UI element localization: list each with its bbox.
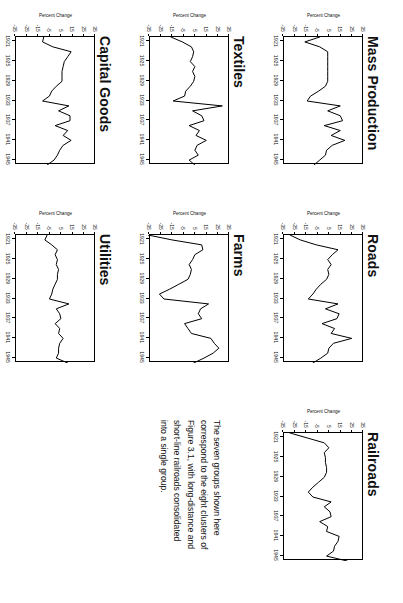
panel-title: Farms [231,234,247,277]
x-tick-mark [13,298,16,299]
y-tick-label: 15 [203,219,209,230]
x-tick-mark [281,515,284,516]
y-tick-label: -35 [280,219,286,230]
y-tick-mark [317,430,318,433]
x-tick-label: 1929 [274,268,280,288]
y-tick-label: -15 [35,21,41,32]
series-svg [282,235,362,363]
y-axis-label: Percent Change [302,211,346,216]
x-tick-label: 1933 [6,288,12,308]
y-tick-label: 35 [226,219,232,230]
x-tick-mark [281,40,284,41]
y-tick-mark [229,34,230,37]
x-tick-label: 1929 [6,70,12,90]
plot-area: 3525155-5-15-25-35Percent Change19211925… [283,36,363,164]
x-tick-mark [13,80,16,81]
x-tick-label: 1933 [6,90,12,110]
y-tick-label: -5 [315,21,321,32]
y-tick-label: 15 [337,21,343,32]
x-tick-mark [147,238,150,239]
y-tick-label: 5 [326,21,332,32]
x-tick-label: 1945 [140,347,146,367]
x-tick-mark [13,119,16,120]
panel-title: Textiles [231,36,247,88]
y-tick-mark [194,34,195,37]
y-tick-label: 35 [360,219,366,230]
x-tick-label: 1921 [140,31,146,51]
x-tick-label: 1929 [274,70,280,90]
y-tick-label: -25 [24,219,30,230]
x-tick-mark [281,476,284,477]
data-line [171,37,222,165]
rotated-page: Mass Production3525155-5-15-25-35Percent… [0,0,403,603]
y-tick-label: 5 [192,21,198,32]
y-tick-mark [317,34,318,37]
y-tick-label: 25 [81,21,87,32]
x-tick-mark [13,238,16,239]
x-tick-mark [281,436,284,437]
series-svg [14,235,94,363]
y-tick-label: -35 [12,21,18,32]
x-tick-mark [281,100,284,101]
axis-box [283,36,363,164]
x-tick-mark [281,80,284,81]
y-tick-mark [26,232,27,235]
y-tick-label: -15 [169,219,175,230]
x-tick-label: 1941 [274,327,280,347]
y-tick-mark [160,232,161,235]
panel-title: Capital Goods [97,36,113,132]
panel-title: Mass Production [365,36,381,150]
x-tick-mark [147,100,150,101]
y-tick-mark [217,34,218,37]
y-tick-label: -25 [292,219,298,230]
data-line [290,433,347,561]
x-tick-label: 1933 [140,90,146,110]
y-tick-label: -15 [303,417,309,428]
x-tick-label: 1941 [6,129,12,149]
y-tick-mark [183,232,184,235]
x-tick-mark [147,357,150,358]
x-tick-label: 1921 [140,229,146,249]
y-tick-mark [340,232,341,235]
y-tick-label: -5 [181,219,187,230]
x-tick-label: 1929 [274,466,280,486]
x-tick-label: 1937 [274,506,280,526]
x-tick-label: 1941 [6,327,12,347]
y-tick-mark [15,34,16,37]
x-tick-mark [281,139,284,140]
y-tick-mark [283,232,284,235]
axis-box [149,36,229,164]
x-tick-mark [281,119,284,120]
x-tick-label: 1921 [274,229,280,249]
data-line [290,235,352,363]
y-tick-label: -5 [181,21,187,32]
x-tick-label: 1945 [140,149,146,169]
x-tick-label: 1921 [6,31,12,51]
y-tick-mark [351,232,352,235]
y-tick-mark [294,232,295,235]
y-tick-label: -35 [280,417,286,428]
y-tick-mark [363,430,364,433]
x-tick-label: 1925 [274,447,280,467]
y-tick-label: 25 [349,417,355,428]
y-tick-mark [340,34,341,37]
chart-panel-utilities: Utilities3525155-5-15-25-35Percent Chang… [0,208,113,366]
x-tick-label: 1925 [6,51,12,71]
figure-caption: The seven groups shown herecorrespond to… [157,420,223,570]
x-tick-label: 1941 [274,525,280,545]
panel-title: Utilities [97,234,113,285]
x-tick-label: 1925 [140,249,146,269]
axis-box [283,432,363,560]
y-tick-label: -25 [292,21,298,32]
x-tick-mark [281,555,284,556]
y-axis-label: Percent Change [34,211,78,216]
x-tick-mark [281,258,284,259]
series-svg [148,235,228,363]
y-tick-mark [183,34,184,37]
axis-box [283,234,363,362]
x-tick-mark [147,40,150,41]
chart-panel-roads: Roads3525155-5-15-25-35Percent Change192… [267,208,381,366]
y-tick-mark [351,34,352,37]
x-tick-mark [281,298,284,299]
y-axis-label: Percent Change [302,13,346,18]
